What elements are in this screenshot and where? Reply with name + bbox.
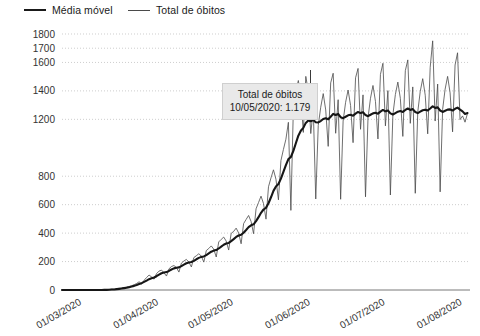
x-tick-label: 01/08/2020 <box>415 296 464 331</box>
y-axis-tick-labels: 020040060080012001400160017001800 <box>33 29 56 296</box>
y-tick-label: 1800 <box>33 29 56 40</box>
chart-legend: Média móvel Total de óbitos <box>0 0 480 22</box>
series-line-total-de-obitos <box>62 41 468 290</box>
legend-item-media-movel: Média móvel <box>24 3 113 17</box>
y-tick-label: 1200 <box>33 114 56 125</box>
gridlines <box>62 34 470 290</box>
y-tick-label: 1400 <box>33 85 56 96</box>
chart-screenshot: Média móvel Total de óbitos 020040060080… <box>0 0 480 336</box>
x-axis-tick-labels: 01/03/202001/04/202001/05/202001/06/2020… <box>34 296 464 331</box>
y-tick-label: 1700 <box>33 43 56 54</box>
x-tick-label: 01/07/2020 <box>338 296 387 331</box>
annotation-tooltip: Total de óbitos 10/05/2020: 1.179 <box>222 83 318 120</box>
legend-label-total-de-obitos: Total de óbitos <box>156 4 225 16</box>
x-tick-label: 01/04/2020 <box>111 296 160 331</box>
y-tick-label: 400 <box>38 228 55 239</box>
legend-item-total-de-obitos: Total de óbitos <box>128 3 225 17</box>
x-tick-label: 01/03/2020 <box>34 296 83 331</box>
y-tick-label: 200 <box>38 256 55 267</box>
x-tick-label: 01/05/2020 <box>186 296 235 331</box>
plot-area: 020040060080012001400160017001800 01/03/… <box>0 22 480 336</box>
legend-swatch-media-movel <box>24 9 46 11</box>
annotation-value: 10/05/2020: 1.179 <box>226 101 314 114</box>
legend-swatch-total-de-obitos <box>128 10 150 11</box>
legend-label-media-movel: Média móvel <box>52 4 113 16</box>
y-tick-label: 600 <box>38 199 55 210</box>
y-tick-label: 1600 <box>33 57 56 68</box>
chart-svg: 020040060080012001400160017001800 01/03/… <box>0 22 480 336</box>
annotation-title: Total de óbitos <box>226 88 314 101</box>
x-tick-label: 01/06/2020 <box>263 296 312 331</box>
annotation-leader-line <box>310 70 311 83</box>
y-tick-label: 0 <box>49 285 55 296</box>
y-tick-label: 800 <box>38 171 55 182</box>
series-line-media-movel <box>62 106 468 290</box>
